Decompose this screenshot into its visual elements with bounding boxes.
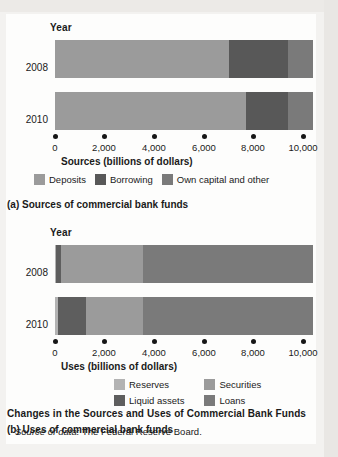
panel-b-legend-label-reserves: Reserves — [129, 379, 169, 390]
panel-a-seg-2008-borrowing — [229, 40, 289, 78]
panel-b-ytick-2008: 2008 — [16, 267, 48, 278]
panel-b-tickdot-8000 — [251, 339, 256, 344]
panel-a-tickdot-8000 — [251, 134, 256, 139]
panel-a-ticklabel-10000: 10,000 — [283, 142, 323, 153]
figure-title: Changes in the Sources and Uses of Comme… — [7, 408, 306, 419]
panel-b-seg-2010-loans — [143, 297, 313, 335]
panel-a-seg-2010-own-capital — [288, 92, 313, 130]
panel-a-caption: (a) Sources of commercial bank funds — [7, 199, 188, 210]
panel-b-legend-item-securities: Securities — [204, 379, 261, 390]
panel-b-ticklabel-10000: 10,000 — [283, 347, 323, 358]
panel-b-legend-item-loans: Loans — [204, 395, 261, 406]
panel-b-seg-2008-securities — [61, 245, 143, 283]
panel-b-tickdot-4000 — [152, 339, 157, 344]
panel-b-legend: Reserves Securities Liquid assets Loans — [114, 379, 261, 406]
panel-b-legend-item-liquid-assets: Liquid assets — [114, 395, 184, 406]
figure-canvas: Year 2008 2010 0 2,000 — [6, 14, 316, 444]
panel-a-ticklabel-0: 0 — [35, 142, 75, 153]
panel-a-ticklabel-6000: 6,000 — [184, 142, 224, 153]
panel-b-bar-2008 — [55, 245, 313, 283]
panel-b-seg-2010-liquid-assets — [58, 297, 87, 335]
chart-panel-b: Year 2008 2010 0 — [6, 219, 316, 429]
panel-a-ticklabel-2000: 2,000 — [84, 142, 124, 153]
panel-a-legend-swatch-borrowing — [95, 174, 106, 185]
panel-a-ytick-2010: 2010 — [16, 114, 48, 125]
figure-source-prefix: Source of data: — [15, 426, 79, 437]
panel-b-tickdot-6000 — [202, 339, 207, 344]
panel-b-bar-2010 — [55, 297, 313, 335]
panel-b-seg-2008-loans — [143, 245, 313, 283]
panel-a-seg-2010-deposits — [55, 92, 246, 130]
panel-a-bar-2008 — [55, 40, 313, 78]
chart-panel-a: Year 2008 2010 0 2,000 — [6, 14, 316, 214]
panel-b-ytick-2010: 2010 — [16, 319, 48, 330]
panel-b-ticklabel-4000: 4,000 — [134, 347, 174, 358]
panel-b-tickdot-10000 — [301, 339, 306, 344]
figure-source-text: The Federal Reserve Board. — [79, 426, 201, 437]
panel-b-tickdot-2000 — [102, 339, 107, 344]
panel-b-legend-item-reserves: Reserves — [114, 379, 184, 390]
panel-a-legend-label-borrowing: Borrowing — [110, 174, 153, 185]
panel-b-legend-swatch-liquid-assets — [114, 395, 125, 406]
panel-a-legend-item-borrowing: Borrowing — [95, 174, 153, 185]
panel-b-ticklabel-8000: 8,000 — [233, 347, 273, 358]
panel-a-legend: Deposits Borrowing Own capital and other — [34, 174, 278, 185]
panel-b-year-axis-label: Year — [50, 227, 72, 238]
panel-a-tickdot-0 — [53, 134, 58, 139]
panel-a-bar-2010 — [55, 92, 313, 130]
panel-a-tickdot-4000 — [152, 134, 157, 139]
panel-b-tickdot-0 — [53, 339, 58, 344]
panel-a-legend-swatch-deposits — [34, 174, 45, 185]
panel-a-seg-2008-own-capital — [288, 40, 313, 78]
panel-a-tickdot-10000 — [301, 134, 306, 139]
panel-a-ticklabel-4000: 4,000 — [134, 142, 174, 153]
panel-a-tickdot-2000 — [102, 134, 107, 139]
panel-a-year-axis-label: Year — [50, 22, 72, 33]
panel-a-legend-item-deposits: Deposits — [34, 174, 86, 185]
panel-a-seg-2008-deposits — [55, 40, 229, 78]
panel-a-ticklabel-8000: 8,000 — [233, 142, 273, 153]
figure-page: Year 2008 2010 0 2,000 — [0, 0, 338, 457]
page-edge-right — [324, 0, 338, 457]
panel-a-legend-label-deposits: Deposits — [49, 174, 86, 185]
panel-b-legend-label-loans: Loans — [219, 395, 245, 406]
panel-b-ticklabel-6000: 6,000 — [184, 347, 224, 358]
panel-b-legend-label-securities: Securities — [219, 379, 261, 390]
panel-a-ytick-2008: 2008 — [16, 62, 48, 73]
panel-b-ticklabel-0: 0 — [35, 347, 75, 358]
panel-a-legend-label-own-capital: Own capital and other — [177, 174, 269, 185]
figure-source: Source of data: The Federal Reserve Boar… — [15, 426, 202, 437]
panel-a-legend-item-own-capital: Own capital and other — [162, 174, 269, 185]
panel-a-tickdot-6000 — [202, 134, 207, 139]
panel-b-ticklabel-2000: 2,000 — [84, 347, 124, 358]
page-edge-top — [0, 0, 338, 12]
panel-b-legend-swatch-reserves — [114, 379, 125, 390]
panel-b-legend-label-liquid-assets: Liquid assets — [129, 395, 184, 406]
panel-b-axis-caption: Uses (billions of dollars) — [61, 361, 177, 372]
panel-a-legend-swatch-own-capital — [162, 174, 173, 185]
panel-b-legend-swatch-loans — [204, 395, 215, 406]
panel-a-axis-caption: Sources (billions of dollars) — [61, 156, 193, 167]
panel-b-legend-swatch-securities — [204, 379, 215, 390]
panel-a-seg-2010-borrowing — [246, 92, 288, 130]
panel-b-seg-2010-securities — [86, 297, 143, 335]
